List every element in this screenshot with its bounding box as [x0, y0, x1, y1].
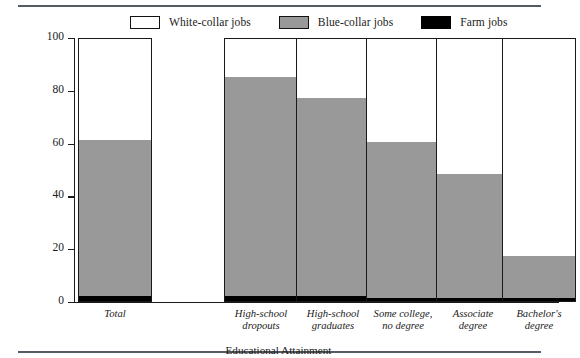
- bar-segment-blue-collar: [367, 142, 439, 298]
- y-tick-40: 40: [68, 196, 74, 197]
- bar-segment-white-collar: [225, 39, 297, 77]
- legend-label-farm: Farm jobs: [460, 16, 507, 28]
- y-tick-label-60: 60: [53, 136, 65, 148]
- y-axis-title: Percentage Distribution of a Sample of H…: [60, 0, 94, 38]
- x-category-label-line: Total: [70, 308, 160, 320]
- bar-segment-blue-collar: [225, 77, 297, 296]
- bar-3[interactable]: [296, 38, 370, 302]
- x-axis-line: [74, 302, 559, 303]
- y-tick-label-20: 20: [53, 241, 65, 253]
- chart-legend: White-collar jobs Blue-collar jobs Farm …: [130, 13, 507, 31]
- bar-4[interactable]: [366, 38, 440, 302]
- bar-1[interactable]: [78, 38, 152, 302]
- y-tick-0: 0: [68, 302, 74, 303]
- y-tick-label-0: 0: [58, 294, 64, 306]
- bar-6[interactable]: [502, 38, 576, 302]
- y-tick-80: 80: [68, 91, 74, 92]
- bar-segment-farm: [367, 298, 439, 301]
- legend-swatch-white-collar: [130, 16, 160, 29]
- bar-segment-blue-collar: [297, 98, 369, 296]
- x-category-label-6: Bachelor'sdegree: [494, 308, 580, 332]
- bar-segment-blue-collar: [437, 174, 509, 298]
- bar-segment-farm: [437, 298, 509, 301]
- bar-segment-white-collar: [367, 39, 439, 142]
- bar-segment-farm: [297, 296, 369, 301]
- bar-segment-farm: [225, 296, 297, 301]
- bar-segment-farm: [503, 298, 575, 301]
- legend-item-blue-collar: Blue-collar jobs: [279, 16, 393, 29]
- plot-area: Percentage Distribution of a Sample of H…: [74, 38, 559, 302]
- bar-5[interactable]: [436, 38, 510, 302]
- bar-segment-white-collar: [437, 39, 509, 174]
- bar-segment-white-collar: [503, 39, 575, 256]
- legend-swatch-blue-collar: [279, 16, 309, 29]
- y-tick-100: 100: [68, 38, 74, 39]
- y-tick-20: 20: [68, 249, 74, 250]
- bar-segment-blue-collar: [503, 256, 575, 298]
- y-tick-label-40: 40: [53, 188, 65, 200]
- bar-segment-farm: [79, 296, 151, 301]
- bar-2[interactable]: [224, 38, 298, 302]
- y-axis-line: [74, 38, 75, 302]
- bar-segment-blue-collar: [79, 140, 151, 296]
- x-axis-title: Educational Attainment: [74, 344, 559, 356]
- x-category-label-line: Bachelor's: [494, 308, 580, 320]
- legend-label-white-collar: White-collar jobs: [169, 16, 251, 28]
- y-tick-label-80: 80: [53, 83, 65, 95]
- legend-swatch-farm: [421, 16, 451, 29]
- y-tick-60: 60: [68, 144, 74, 145]
- bar-segment-white-collar: [297, 39, 369, 98]
- x-category-label-line: degree: [494, 320, 580, 332]
- top-rule: [18, 5, 541, 7]
- legend-item-farm: Farm jobs: [421, 16, 507, 29]
- x-category-label-1: Total: [70, 308, 160, 320]
- bar-segment-white-collar: [79, 39, 151, 140]
- legend-label-blue-collar: Blue-collar jobs: [318, 16, 393, 28]
- legend-item-white-collar: White-collar jobs: [130, 16, 251, 29]
- y-tick-label-100: 100: [47, 30, 64, 42]
